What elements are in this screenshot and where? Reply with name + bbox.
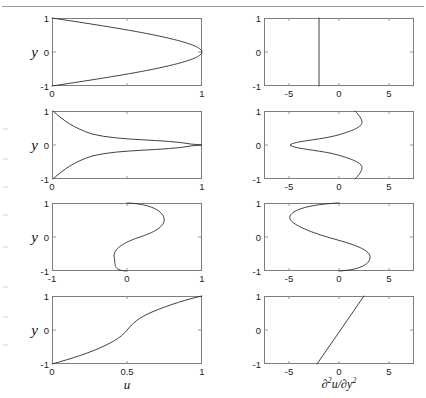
ytick-1: 1	[44, 106, 49, 117]
panel-tanh-second-derivative: 1 0 -1 -5 0 5 ∂2u/∂y2	[264, 296, 414, 364]
ytick-1: 1	[256, 13, 261, 24]
scan-artifact	[3, 246, 8, 248]
curve-tanh	[52, 296, 202, 364]
ytick-1: 1	[256, 198, 261, 209]
curve-poiseuille	[52, 18, 202, 86]
xtick-0: 0	[49, 88, 54, 99]
xtick-half: 0.5	[120, 366, 133, 377]
axis-label-y: y	[31, 44, 38, 61]
xtick-0: 0	[336, 181, 341, 192]
curve-sinusoidal	[114, 203, 164, 271]
ytick-1: 1	[44, 13, 49, 24]
xtick-neg5: -5	[285, 366, 293, 377]
panel-sinusoidal-second-derivative: 1 0 -1 -5 0 5	[264, 203, 414, 271]
xtick-neg1: -1	[48, 273, 56, 284]
panel-poiseuille-second-derivative: 1 0 -1 -5 0 5	[264, 18, 414, 86]
xtick-5: 5	[386, 88, 391, 99]
xtick-5: 5	[386, 181, 391, 192]
panel-jet-profile: y 1 0 -1 0 1	[52, 111, 202, 179]
ytick-neg1: -1	[253, 266, 261, 277]
scan-artifact	[3, 214, 8, 216]
ytick-1: 1	[44, 291, 49, 302]
xtick-5: 5	[386, 273, 391, 284]
xtick-0: 0	[336, 273, 341, 284]
ytick-0: 0	[256, 140, 261, 151]
xtick-1: 1	[199, 273, 204, 284]
axis-label-y: y	[31, 229, 38, 246]
curve-tanh-d2	[317, 296, 364, 364]
scan-artifact	[3, 344, 8, 346]
curve-jet	[53, 111, 202, 179]
xtick-0: 0	[124, 273, 129, 284]
scan-artifact	[3, 286, 8, 288]
ytick-1: 1	[256, 291, 261, 302]
ytick-0: 0	[44, 325, 49, 336]
ytick-neg1: -1	[41, 174, 49, 185]
xtick-0: 0	[49, 181, 54, 192]
xtick-0: 0	[49, 366, 54, 377]
axis-label-y: y	[31, 137, 38, 154]
curve-jet-d2	[290, 111, 362, 179]
xtick-neg5: -5	[285, 181, 293, 192]
ytick-neg1: -1	[253, 359, 261, 370]
ytick-0: 0	[256, 47, 261, 58]
xtick-5: 5	[386, 366, 391, 377]
ytick-1: 1	[44, 198, 49, 209]
denominator-exponent: 2	[352, 376, 356, 385]
axis-label-second-derivative: ∂2u/∂y2	[322, 376, 357, 392]
ytick-neg1: -1	[41, 81, 49, 92]
figure-velocity-profiles: y 1 0 -1 0 1 1 0 -1 -5 0 5 y 1	[0, 0, 426, 398]
scan-artifact	[3, 316, 8, 318]
panel-tanh-profile: y 1 0 -1 0 0.5 1 u	[52, 296, 202, 364]
ytick-neg1: -1	[253, 81, 261, 92]
ytick-neg1: -1	[41, 359, 49, 370]
scan-artifact	[3, 158, 8, 160]
xtick-1: 1	[199, 88, 204, 99]
axis-label-y: y	[31, 322, 38, 339]
ytick-1: 1	[256, 106, 261, 117]
xtick-0: 0	[336, 88, 341, 99]
ytick-0: 0	[44, 47, 49, 58]
curve-sinusoidal-d2	[290, 203, 370, 271]
panel-poiseuille-profile: y 1 0 -1 0 1	[52, 18, 202, 86]
ytick-0: 0	[44, 232, 49, 243]
axis-label-u: u	[124, 377, 131, 393]
ytick-0: 0	[44, 140, 49, 151]
panel-jet-second-derivative: 1 0 -1 -5 0 5	[264, 111, 414, 179]
xtick-neg5: -5	[285, 88, 293, 99]
xtick-neg5: -5	[285, 273, 293, 284]
scan-artifact	[3, 128, 8, 130]
panel-sinusoidal-profile: y 1 0 -1 -1 0 1	[52, 203, 202, 271]
xtick-1: 1	[199, 181, 204, 192]
ytick-0: 0	[256, 232, 261, 243]
xtick-1: 1	[199, 366, 204, 377]
scan-artifact	[3, 186, 8, 188]
ytick-0: 0	[256, 325, 261, 336]
ytick-neg1: -1	[253, 174, 261, 185]
